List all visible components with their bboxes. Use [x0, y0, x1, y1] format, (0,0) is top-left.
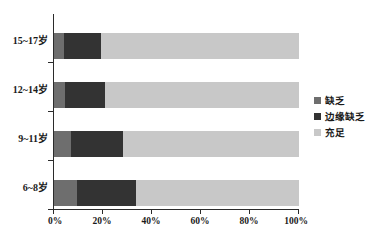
bar-segment: [54, 180, 77, 206]
bar-row: [54, 131, 299, 157]
bar-segment: [54, 82, 65, 108]
x-axis-label-100: 100%: [284, 216, 308, 226]
legend-label: 充足: [325, 125, 345, 139]
y-axis-label-12-14: 12~14岁: [0, 81, 48, 96]
bar-segment: [71, 131, 122, 157]
bar-segment: [105, 82, 299, 108]
x-axis-tick: [102, 210, 103, 214]
legend-label: 边缘缺乏: [325, 109, 365, 123]
y-axis-tick: [48, 160, 53, 161]
bar-segment: [54, 33, 64, 59]
legend-item-marginal-deficient[interactable]: 边缘缺乏: [314, 108, 380, 124]
bar-row: [54, 180, 299, 206]
bar-segment: [54, 131, 71, 157]
x-axis-tick: [249, 210, 250, 214]
x-axis-label-40: 40%: [142, 216, 161, 226]
legend-swatch-icon: [314, 129, 321, 136]
x-axis-label-60: 60%: [191, 216, 210, 226]
y-axis-tick: [48, 62, 53, 63]
x-axis-tick: [200, 210, 201, 214]
bar-segment: [77, 180, 136, 206]
bar-segment: [101, 33, 299, 59]
bar-row: [54, 33, 299, 59]
legend-swatch-icon: [314, 113, 321, 120]
chart-legend: 缺乏 边缘缺乏 充足: [314, 92, 380, 140]
x-axis-tick: [53, 210, 54, 214]
bar-segment: [64, 33, 101, 59]
legend-item-sufficient[interactable]: 充足: [314, 124, 380, 140]
stacked-bar-chart: 15~17岁 12~14岁 9~11岁 6~8岁 0% 20% 40% 60% …: [0, 0, 384, 240]
y-axis-label-15-17: 15~17岁: [0, 32, 48, 47]
x-axis-label-20: 20%: [93, 216, 112, 226]
bar-segment: [123, 131, 299, 157]
bar-segment: [65, 82, 105, 108]
bar-row: [54, 82, 299, 108]
legend-swatch-icon: [314, 97, 321, 104]
y-axis-label-6-8: 6~8岁: [0, 179, 48, 194]
x-axis-tick: [151, 210, 152, 214]
x-axis-label-0: 0%: [48, 216, 62, 226]
legend-label: 缺乏: [325, 93, 345, 107]
x-axis-label-80: 80%: [240, 216, 259, 226]
bar-segment: [136, 180, 299, 206]
x-axis-tick: [298, 210, 299, 214]
legend-item-deficient[interactable]: 缺乏: [314, 92, 380, 108]
y-axis-label-9-11: 9~11岁: [0, 130, 48, 145]
plot-area: [54, 14, 299, 210]
y-axis-tick: [48, 111, 53, 112]
